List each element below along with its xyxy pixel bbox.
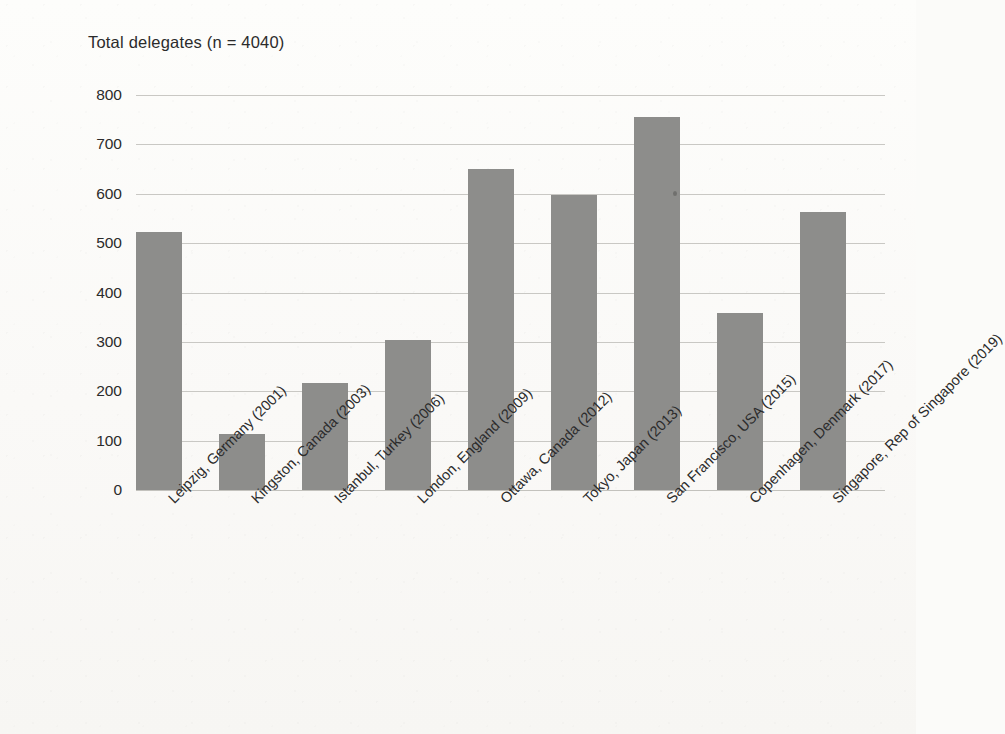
y-tick-label-400: 400 — [96, 284, 122, 302]
x-axis-tick-labels: Leipzig, Germany (2001)Kingston, Canada … — [136, 495, 916, 725]
y-axis-tick-labels: 8007006005004003002001000 — [0, 95, 136, 490]
chart-title: Total delegates (n = 4040) — [88, 33, 284, 52]
y-tick-label-100: 100 — [96, 432, 122, 450]
y-tick-label-500: 500 — [96, 234, 122, 252]
y-tick-label-700: 700 — [96, 135, 122, 153]
y-tick-label-200: 200 — [96, 382, 122, 400]
y-tick-label-0: 0 — [113, 481, 122, 499]
y-tick-label-300: 300 — [96, 333, 122, 351]
scan-speck — [673, 191, 677, 196]
y-tick-label-600: 600 — [96, 185, 122, 203]
bar — [136, 232, 182, 490]
y-tick-label-800: 800 — [96, 86, 122, 104]
